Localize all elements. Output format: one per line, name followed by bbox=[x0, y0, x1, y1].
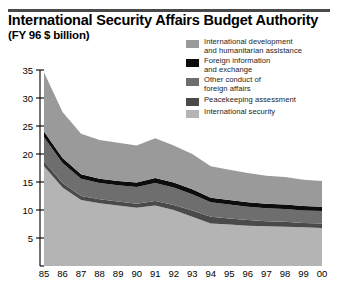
y-tick-label-20: 20 bbox=[22, 149, 33, 160]
x-tick-label-99: 99 bbox=[298, 268, 309, 279]
x-tick-label-92: 92 bbox=[168, 268, 179, 279]
y-tick-label-15: 15 bbox=[22, 177, 33, 188]
x-tick-label-00: 00 bbox=[317, 268, 328, 279]
stacked-area-plot: 5101520253035858687888990919293949596979… bbox=[0, 0, 338, 283]
x-tick-label-89: 89 bbox=[113, 268, 124, 279]
y-tick-label-5: 5 bbox=[28, 233, 33, 244]
x-tick-label-86: 86 bbox=[57, 268, 68, 279]
y-tick-label-30: 30 bbox=[22, 93, 33, 104]
x-tick-label-85: 85 bbox=[39, 268, 50, 279]
x-tick-label-96: 96 bbox=[243, 268, 254, 279]
x-tick-label-94: 94 bbox=[206, 268, 217, 279]
x-tick-label-93: 93 bbox=[187, 268, 198, 279]
x-tick-label-98: 98 bbox=[280, 268, 291, 279]
plot-area: 5101520253035858687888990919293949596979… bbox=[0, 0, 338, 283]
x-tick-label-88: 88 bbox=[94, 268, 105, 279]
x-tick-label-95: 95 bbox=[224, 268, 235, 279]
y-tick-label-10: 10 bbox=[22, 205, 33, 216]
y-tick-label-25: 25 bbox=[22, 121, 33, 132]
x-tick-label-91: 91 bbox=[150, 268, 161, 279]
y-tick-label-35: 35 bbox=[22, 65, 33, 76]
chart-container: International Security Affairs Budget Au… bbox=[0, 0, 338, 283]
x-tick-label-97: 97 bbox=[261, 268, 272, 279]
x-tick-label-87: 87 bbox=[76, 268, 87, 279]
x-tick-label-90: 90 bbox=[131, 268, 142, 279]
